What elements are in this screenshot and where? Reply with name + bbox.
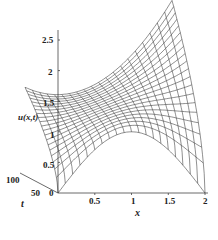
t-axis-label: t [21,199,24,209]
origin-tick: 0 [49,189,54,198]
x-tick-1.5: 1.5 [164,197,175,206]
x-tick-0.5: 0.5 [89,197,100,206]
x-tick-1: 1 [131,197,136,206]
z-tick-2.5: 2.5 [42,36,53,45]
z-axis-label: u(x,t) [18,113,38,122]
z-tick-1: 1 [50,131,55,140]
z-tick-2: 2 [48,68,53,77]
t-tick-100: 100 [6,176,20,185]
z-tick-1.5: 1.5 [43,99,54,108]
t-tick-50: 50 [31,189,40,198]
z-tick-0.5: 0.5 [43,161,54,170]
x-tick-2: 2 [203,197,208,206]
x-axis-label: x [135,208,140,218]
